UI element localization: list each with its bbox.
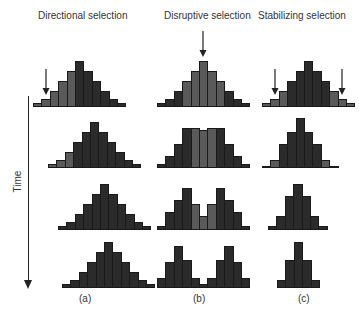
histogram-b-row-1	[157, 61, 249, 107]
histogram-b-row-3	[157, 188, 249, 230]
histogram-c-row-2	[262, 118, 338, 168]
histogram-bar	[346, 103, 355, 107]
histogram-a-row-2	[48, 122, 140, 168]
histogram-bar	[241, 164, 250, 168]
histogram-bar	[311, 280, 320, 288]
histogram-bar	[142, 226, 151, 230]
histogram-bar	[241, 278, 250, 288]
histogram-b-row-4	[157, 246, 249, 288]
panel-label-a: (a)	[79, 293, 91, 304]
title-disruptive: Disruptive selection	[164, 10, 251, 21]
time-axis-label: Time	[12, 167, 23, 197]
time-axis-line	[28, 96, 29, 282]
panel-label-b: (b)	[193, 293, 205, 304]
panel-label-c: (c)	[298, 293, 310, 304]
histogram-bar	[241, 226, 250, 230]
histogram-c-row-4	[277, 242, 319, 288]
histogram-c-row-3	[268, 184, 327, 230]
histogram-bar	[146, 284, 155, 288]
title-directional: Directional selection	[38, 10, 128, 21]
histogram-bar	[318, 226, 327, 230]
selection-arrow-icon	[41, 69, 51, 95]
selection-arrow-icon	[337, 69, 347, 95]
title-stabilizing: Stabilizing selection	[258, 10, 346, 21]
histogram-a-row-3	[58, 184, 150, 230]
histogram-b-row-2	[157, 128, 249, 168]
histogram-bar	[117, 103, 126, 107]
histogram-bar	[132, 164, 141, 168]
time-axis-arrowhead-icon	[24, 280, 32, 289]
histogram-bar	[241, 103, 250, 107]
histogram-bar	[329, 166, 338, 168]
selection-arrow-icon	[198, 31, 208, 57]
selection-arrow-icon	[270, 69, 280, 95]
histogram-a-row-4	[62, 242, 154, 288]
